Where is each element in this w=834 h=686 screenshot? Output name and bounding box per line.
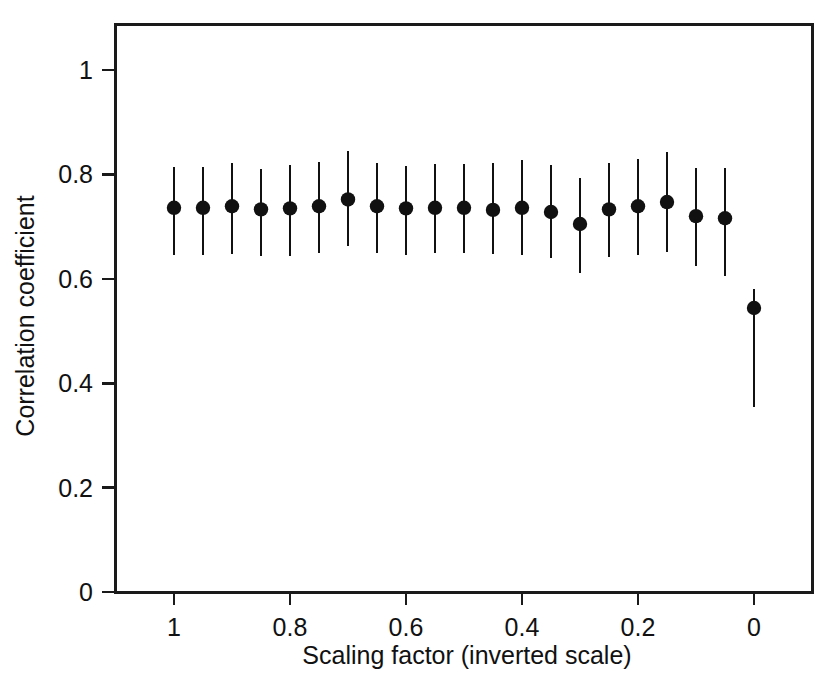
data-marker [573, 217, 587, 231]
y-axis-tick-labels: 00.20.40.60.81 [58, 56, 93, 606]
data-point [283, 165, 297, 256]
correlation-scaling-figure: 10.80.60.40.20 00.20.40.60.81 Scaling fa… [0, 0, 834, 686]
chart-canvas: 10.80.60.40.20 00.20.40.60.81 Scaling fa… [0, 0, 834, 686]
data-marker [196, 201, 210, 215]
data-marker [544, 205, 558, 219]
y-tick-label: 0.8 [58, 160, 93, 188]
x-tick-label: 0.8 [273, 613, 308, 641]
data-marker [428, 201, 442, 215]
data-marker [689, 209, 703, 223]
x-axis-tick-labels: 10.80.60.40.20 [167, 613, 761, 641]
data-point [341, 151, 355, 247]
y-tick-label: 0.4 [58, 369, 93, 397]
data-marker [457, 201, 471, 215]
data-marker [312, 199, 326, 213]
data-marker [660, 195, 674, 209]
data-points-layer [167, 151, 761, 407]
data-point [631, 159, 645, 255]
x-tick-label: 0.2 [621, 613, 656, 641]
y-axis-title: Correlation coefficient [11, 195, 39, 436]
data-point [486, 163, 500, 254]
data-point [747, 289, 761, 406]
data-point [428, 164, 442, 253]
data-point [254, 169, 268, 257]
x-tick-label: 0 [747, 613, 761, 641]
data-marker [254, 202, 268, 216]
data-point [660, 152, 674, 252]
y-tick-label: 0 [79, 578, 93, 606]
data-point [312, 162, 326, 253]
data-point [457, 164, 471, 253]
data-marker [341, 192, 355, 206]
data-marker [167, 201, 181, 215]
data-point [718, 168, 732, 276]
data-marker [399, 201, 413, 215]
data-point [544, 165, 558, 258]
x-tick-label: 0.6 [389, 613, 424, 641]
data-marker [370, 199, 384, 213]
x-axis-ticks [174, 592, 754, 605]
data-point [225, 163, 239, 254]
data-marker [283, 201, 297, 215]
data-point [689, 168, 703, 266]
data-point [602, 163, 616, 257]
x-tick-label: 0.4 [505, 613, 540, 641]
y-tick-label: 1 [79, 56, 93, 84]
data-marker [747, 301, 761, 315]
data-marker [225, 199, 239, 213]
plot-frame [115, 24, 812, 592]
data-marker [602, 202, 616, 216]
series-0 [167, 151, 761, 407]
data-marker [486, 203, 500, 217]
data-marker [718, 211, 732, 225]
data-point [196, 167, 210, 255]
data-point [167, 167, 181, 255]
y-axis-ticks [102, 70, 115, 592]
data-point [399, 166, 413, 255]
data-point [573, 178, 587, 272]
x-axis-title: Scaling factor (inverted scale) [302, 641, 631, 669]
data-marker [515, 201, 529, 215]
y-tick-label: 0.2 [58, 474, 93, 502]
data-point [515, 160, 529, 256]
data-point [370, 163, 384, 253]
data-marker [631, 199, 645, 213]
y-tick-label: 0.6 [58, 265, 93, 293]
x-tick-label: 1 [167, 613, 181, 641]
